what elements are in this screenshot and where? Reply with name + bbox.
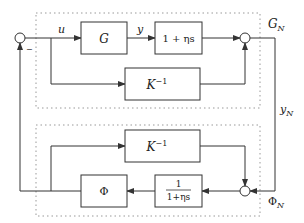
signal-Kinv-top-out	[200, 43, 245, 84]
signal-Kinv-bottom-out	[200, 146, 245, 186]
block-G-label: G	[99, 32, 109, 46]
block-lead-label: 1 + ηs	[162, 33, 194, 44]
signal-yN-line	[250, 38, 275, 191]
block-lag-denominator: 1+ηs	[167, 192, 191, 202]
signal-u-label: u	[58, 23, 65, 36]
block-diagram: GN ΦN − u G y 1 + ηs K−1 yN 1 1+ηs Φ K−1	[0, 0, 304, 223]
minus-sign: −	[26, 45, 33, 54]
signal-y-label: y	[136, 23, 144, 36]
input-sum-junction	[15, 33, 25, 43]
group-label-PhiN: ΦN	[268, 195, 285, 210]
top-output-sum-junction	[240, 33, 250, 43]
bottom-sum-junction	[240, 186, 250, 196]
group-label-GN: GN	[268, 17, 286, 33]
block-lag-numerator: 1	[176, 179, 182, 189]
block-Phi-label: Φ	[99, 185, 108, 198]
signal-yN-label: yN	[279, 103, 294, 118]
